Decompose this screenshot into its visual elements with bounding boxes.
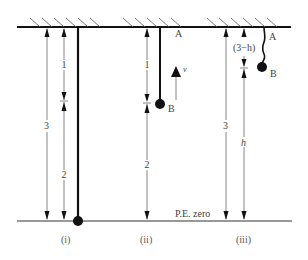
dim-label-upper: 1 [145, 59, 150, 70]
pe-zero-label: P.E. zero [175, 208, 210, 219]
arrow-down-icon [62, 92, 67, 100]
arrow-down-icon [242, 59, 247, 67]
dim-label-upper: 1 [62, 59, 67, 70]
dimension-split [143, 29, 151, 219]
arrow-down-icon [242, 211, 247, 220]
dim-label-lower: 2 [145, 159, 150, 170]
arrow-up-icon [45, 28, 50, 37]
panel-iii: 3 (3−h) h A B (iii) [223, 27, 277, 246]
arrow-up-icon [242, 69, 247, 78]
diagram-canvas: P.E. zero 3 1 2 (i) [0, 0, 308, 260]
dim-label-lower: 2 [62, 169, 67, 180]
panel-caption: (iii) [236, 234, 251, 246]
dim-label-lower: h [241, 137, 246, 148]
velocity-arrow-icon [171, 66, 181, 77]
panel-caption: (i) [61, 234, 70, 246]
dim-label-total: 3 [223, 120, 228, 131]
dim-label-upper: (3−h) [233, 42, 255, 54]
panel-i: 3 1 2 (i) [44, 27, 83, 246]
point-b-label: B [270, 68, 277, 79]
ceiling-hatching [30, 18, 277, 27]
arrow-up-icon [62, 102, 67, 111]
point-b-label: B [168, 103, 175, 114]
ball [257, 62, 267, 72]
arrow-down-icon [145, 211, 150, 220]
dim-label-total: 3 [44, 120, 49, 131]
arrow-up-icon [62, 28, 67, 37]
ball [155, 99, 165, 109]
arrow-up-icon [242, 28, 247, 37]
arrow-down-icon [62, 211, 67, 220]
arrow-down-icon [224, 211, 229, 220]
point-a-label: A [175, 28, 183, 39]
velocity-label: v [183, 65, 187, 74]
slack-rope [262, 27, 265, 63]
dimension-split [240, 29, 248, 219]
point-a-label: A [269, 31, 277, 42]
arrow-up-icon [145, 104, 150, 113]
arrow-up-icon [224, 28, 229, 37]
dimension-split [60, 29, 68, 219]
ceiling [17, 18, 291, 27]
arrow-down-icon [45, 211, 50, 220]
arrow-down-icon [145, 94, 150, 102]
panel-caption: (ii) [140, 234, 152, 246]
ball [73, 216, 83, 226]
arrow-up-icon [145, 28, 150, 37]
